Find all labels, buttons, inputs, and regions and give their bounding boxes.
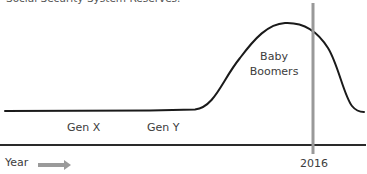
baby-boomers-label: Baby Boomers	[244, 49, 304, 79]
reserves-diagram	[0, 0, 367, 174]
right-arrow-icon	[38, 160, 72, 170]
baby-boomers-line1: Baby	[244, 49, 304, 64]
gen-x-label: Gen X	[67, 121, 100, 134]
year-2016-label: 2016	[300, 157, 328, 170]
baby-boomers-line2: Boomers	[244, 64, 304, 79]
x-axis-year-label: Year	[5, 156, 28, 169]
reserves-curve	[5, 23, 364, 112]
gen-y-label: Gen Y	[147, 121, 179, 134]
